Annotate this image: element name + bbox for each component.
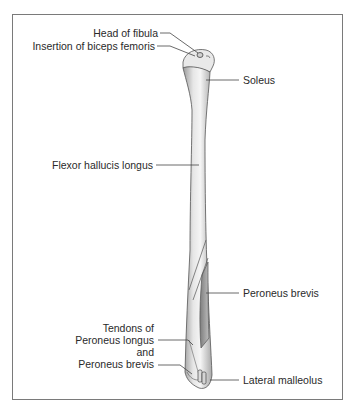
label-flexor-hallucis-longus: Flexor hallucis longus: [52, 159, 153, 171]
label-tendons-line-3: and: [75, 346, 154, 358]
label-tendons-peroneus: Tendons of Peroneus longus and Peroneus …: [75, 322, 154, 370]
label-insertion-biceps-femoris: Insertion of biceps femoris: [32, 40, 155, 52]
label-tendons-line-2: Peroneus longus: [75, 334, 154, 346]
fibula-illustration: [0, 0, 351, 408]
label-soleus: Soleus: [243, 74, 275, 86]
label-peroneus-brevis: Peroneus brevis: [243, 287, 319, 299]
label-head-of-fibula: Head of fibula: [93, 27, 158, 39]
label-lateral-malleolus: Lateral malleolus: [243, 374, 322, 386]
label-tendons-line-1: Tendons of: [75, 322, 154, 334]
label-tendons-line-4: Peroneus brevis: [75, 358, 154, 370]
